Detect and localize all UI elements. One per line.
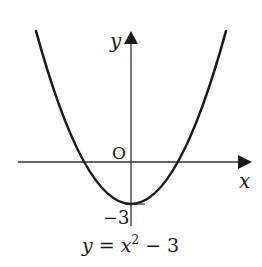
y-axis-label: y <box>109 29 122 53</box>
origin-label: O <box>112 143 126 163</box>
x-axis-label: x <box>239 169 250 193</box>
y-axis-arrow-icon <box>124 31 138 44</box>
y-intercept-label: −3 <box>103 207 130 228</box>
x-axis-arrow-icon <box>238 155 252 169</box>
equation-label: y = x2 − 3 <box>81 233 179 256</box>
parabola-graph: y x O −3 y = x2 − 3 <box>0 0 262 267</box>
